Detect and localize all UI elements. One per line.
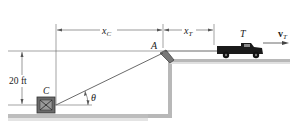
label-height: 20 ft: [9, 76, 27, 86]
rope-diagonal: [56, 53, 163, 105]
arrowhead-icon: [87, 100, 90, 105]
truck-icon: [217, 43, 263, 58]
pulley-truck-diagram: xC xT A T vT 20 ft C θ: [0, 0, 300, 135]
arrowhead-icon: [57, 29, 62, 32]
label-point-a: A: [150, 40, 158, 51]
arrowhead-icon: [157, 29, 162, 32]
arrowhead-icon: [21, 99, 24, 104]
arrowhead-icon: [21, 52, 24, 57]
label-xt: xT: [183, 25, 193, 38]
cliff-wall: [148, 61, 170, 116]
label-xc: xC: [101, 25, 111, 38]
arrowhead-icon: [208, 29, 213, 32]
lower-ground-shadow: [8, 118, 148, 121]
crate-icon: [37, 97, 55, 113]
label-velocity: vT: [278, 28, 288, 41]
velocity-arrow-icon: [282, 41, 289, 45]
pulley-bracket: [160, 50, 174, 63]
label-angle: θ: [91, 92, 96, 103]
arrowhead-icon: [164, 29, 169, 32]
label-crate: C: [43, 86, 50, 96]
upper-ground-shadow: [170, 62, 290, 64]
label-truck: T: [240, 28, 247, 39]
